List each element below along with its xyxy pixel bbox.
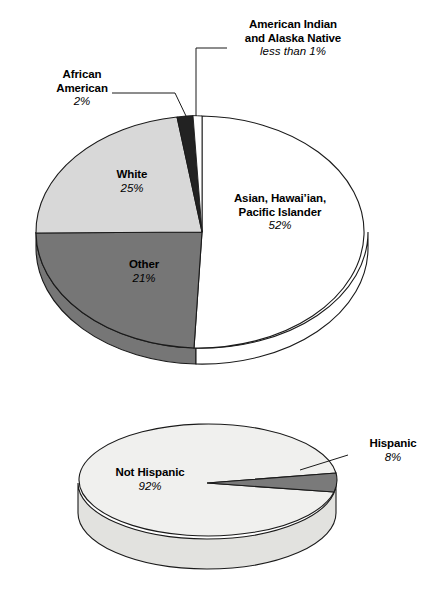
label-white: White 25% — [92, 168, 172, 195]
label-name: Hispanic — [350, 437, 436, 451]
label-name-line2: and Alaska Native — [213, 32, 373, 46]
label-name: White — [92, 168, 172, 182]
label-name: American Indian — [213, 18, 373, 32]
label-value: less than 1% — [213, 45, 373, 59]
label-name-line2: Pacific Islander — [210, 206, 350, 220]
label-value: 52% — [210, 219, 350, 233]
label-not-hispanic: Not Hispanic 92% — [90, 466, 210, 493]
label-name: Asian, Hawai’ian, — [210, 192, 350, 206]
label-other: Other 21% — [104, 258, 184, 285]
label-value: 8% — [350, 451, 436, 465]
label-value: 2% — [22, 95, 142, 109]
label-name-line2: American — [22, 82, 142, 96]
label-value: 21% — [104, 272, 184, 286]
label-name: Other — [104, 258, 184, 272]
label-asian-hawaiian-pacific-islander: Asian, Hawai’ian, Pacific Islander 52% — [210, 192, 350, 233]
race-slice-other-top — [36, 232, 202, 348]
ethnicity-pie-chart — [78, 424, 348, 569]
label-american-indian-alaska-native: American Indian and Alaska Native less t… — [213, 18, 373, 59]
label-value: 25% — [92, 182, 172, 196]
label-name: African — [22, 68, 142, 82]
label-value: 92% — [90, 480, 210, 494]
label-name: Not Hispanic — [90, 466, 210, 480]
label-hispanic: Hispanic 8% — [350, 437, 436, 464]
label-african-american: African American 2% — [22, 68, 142, 109]
pie-charts-figure: American Indian and Alaska Native less t… — [0, 0, 443, 599]
